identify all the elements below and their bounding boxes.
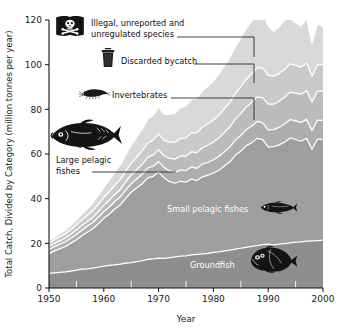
annotation-bycatch-label: Discarded bycatch — [121, 56, 197, 66]
x-axis-ticks: 195019601970198019902000 — [38, 288, 335, 304]
y-tick-label: 20 — [31, 239, 43, 249]
x-tick-label: 1980 — [202, 294, 225, 304]
annotation-large-pelagic-label-line1: Large pelagic — [56, 155, 111, 165]
annotation-groundfish-label: Groundfish — [190, 260, 235, 270]
x-tick-label: 1950 — [38, 294, 61, 304]
chart-figure: 020406080100120 195019601970198019902000… — [0, 0, 341, 330]
annotation-small-pelagic-label: Small pelagic fishes — [167, 204, 248, 214]
annotation-iuu-label-line1: Illegal, unreported and — [91, 18, 184, 28]
annotation-large-pelagic-label-line2: fishes — [56, 166, 80, 176]
y-axis-title: Total Catch, Divided by Category (millio… — [4, 30, 14, 278]
y-axis-ticks: 020406080100120 — [25, 15, 49, 293]
y-tick-label: 40 — [31, 194, 43, 204]
y-tick-label: 100 — [25, 60, 42, 70]
annotation-small-pelagic: Small pelagic fishes — [167, 201, 297, 214]
x-tick-label: 1960 — [92, 294, 115, 304]
y-tick-label: 0 — [36, 283, 42, 293]
x-tick-label: 1970 — [147, 294, 170, 304]
stacked-area-chart: 020406080100120 195019601970198019902000… — [0, 0, 341, 330]
x-axis-title: Year — [175, 314, 195, 324]
x-tick-label: 1990 — [257, 294, 280, 304]
y-tick-label: 80 — [31, 105, 43, 115]
y-tick-label: 60 — [31, 149, 43, 159]
x-tick-label: 2000 — [312, 294, 335, 304]
annotation-invertebrates-label: Invertebrates — [112, 90, 167, 100]
y-tick-label: 120 — [25, 15, 42, 25]
pirate-flag-icon — [56, 16, 84, 36]
annotation-iuu-label-line2: unregulated species — [91, 29, 174, 39]
